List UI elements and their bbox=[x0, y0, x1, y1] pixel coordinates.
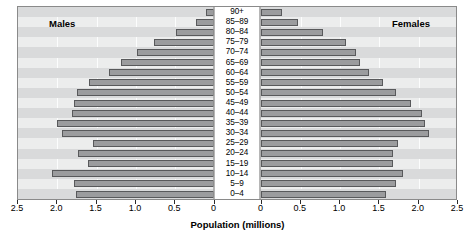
age-group-label: 25–29 bbox=[215, 138, 260, 148]
female-bar bbox=[261, 79, 384, 86]
male-bar bbox=[72, 110, 213, 117]
male-bar bbox=[77, 89, 214, 96]
female-bar bbox=[261, 170, 403, 177]
male-bar bbox=[93, 140, 213, 147]
male-bar bbox=[109, 69, 214, 76]
male-bar bbox=[176, 29, 214, 36]
age-group-label: 30–34 bbox=[215, 128, 260, 138]
females-label: Females bbox=[392, 18, 430, 29]
female-bar bbox=[261, 69, 369, 76]
plot-area: 90+85–8980–8475–7970–7465–6960–6455–5950… bbox=[17, 6, 457, 200]
male-bar bbox=[74, 100, 213, 107]
female-bar bbox=[261, 29, 324, 36]
axis-tick-label: 1.0 bbox=[333, 203, 346, 213]
male-bar bbox=[57, 120, 213, 127]
male-bar bbox=[76, 191, 214, 198]
female-bar bbox=[261, 19, 299, 26]
female-bar bbox=[261, 120, 425, 127]
age-group-label: 10–14 bbox=[215, 169, 260, 179]
males-label: Males bbox=[49, 18, 75, 29]
male-bar bbox=[89, 79, 213, 86]
male-bar bbox=[196, 19, 213, 26]
age-group-label: 85–89 bbox=[215, 17, 260, 27]
axis-tick-label: 1.0 bbox=[129, 203, 142, 213]
age-group-label: 0–4 bbox=[215, 189, 260, 199]
male-bar bbox=[206, 9, 214, 16]
age-group-label: 20–24 bbox=[215, 149, 260, 159]
female-bar bbox=[261, 9, 282, 16]
age-group-label: 65–69 bbox=[215, 58, 260, 68]
age-group-label: 45–49 bbox=[215, 98, 260, 108]
female-bar bbox=[261, 89, 397, 96]
male-bar bbox=[137, 49, 213, 56]
age-group-label: 35–39 bbox=[215, 118, 260, 128]
age-group-label: 70–74 bbox=[215, 47, 260, 57]
female-bar bbox=[261, 180, 396, 187]
female-bar bbox=[261, 39, 347, 46]
male-bar bbox=[78, 150, 213, 157]
axis-tick-label: 2.5 bbox=[11, 203, 24, 213]
female-bar bbox=[261, 100, 412, 107]
age-group-label: 75–79 bbox=[215, 37, 260, 47]
axis-tick-label: 0.5 bbox=[294, 203, 307, 213]
axis-tick-label: 0.5 bbox=[168, 203, 181, 213]
male-bar bbox=[52, 170, 213, 177]
female-bar bbox=[261, 130, 429, 137]
x-axis: 2.52.01.51.00.5000.51.01.52.02.5 bbox=[17, 200, 457, 212]
age-group-label: 60–64 bbox=[215, 68, 260, 78]
axis-tick-label: 0 bbox=[258, 203, 263, 213]
age-group-label: 80–84 bbox=[215, 27, 260, 37]
age-group-label: 90+ bbox=[215, 7, 260, 17]
female-bar bbox=[261, 191, 387, 198]
male-bar bbox=[154, 39, 214, 46]
population-pyramid-chart: 90+85–8980–8475–7970–7465–6960–6455–5950… bbox=[0, 0, 475, 237]
female-bar bbox=[261, 140, 399, 147]
axis-tick-label: 2.0 bbox=[50, 203, 63, 213]
axis-tick-label: 1.5 bbox=[89, 203, 102, 213]
age-group-label: 5–9 bbox=[215, 179, 260, 189]
female-bar bbox=[261, 49, 356, 56]
female-bar bbox=[261, 160, 393, 167]
male-bar bbox=[62, 130, 214, 137]
age-group-label: 55–59 bbox=[215, 78, 260, 88]
male-bar bbox=[88, 160, 214, 167]
female-bar bbox=[261, 150, 393, 157]
age-group-label: 50–54 bbox=[215, 88, 260, 98]
female-bar bbox=[261, 110, 422, 117]
age-group-axis: 90+85–8980–8475–7970–7465–6960–6455–5950… bbox=[214, 7, 261, 199]
age-group-label: 15–19 bbox=[215, 159, 260, 169]
axis-tick-label: 0 bbox=[211, 203, 216, 213]
x-axis-title: Population (millions) bbox=[0, 219, 475, 230]
axis-tick-label: 2.0 bbox=[411, 203, 424, 213]
axis-tick-label: 2.5 bbox=[451, 203, 464, 213]
male-bar bbox=[74, 180, 213, 187]
age-group-label: 40–44 bbox=[215, 108, 260, 118]
axis-tick-label: 1.5 bbox=[372, 203, 385, 213]
male-bar bbox=[121, 59, 214, 66]
female-bar bbox=[261, 59, 361, 66]
